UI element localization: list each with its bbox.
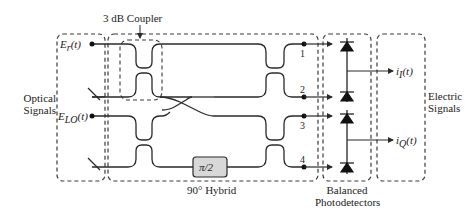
lo-input-label: ELO(t) — [58, 110, 88, 126]
vacuum-port-top — [88, 88, 100, 100]
signal-base: E — [60, 38, 67, 50]
diagram-canvas — [0, 0, 476, 211]
electric-signals-box — [377, 34, 425, 181]
signal-input-label: Er(t) — [60, 38, 81, 54]
photodiodes — [340, 38, 354, 174]
electric-signals-line1: Electric — [428, 90, 462, 102]
port-4-label: 4 — [300, 154, 305, 166]
port-3-label: 3 — [300, 120, 305, 132]
lo-base: E — [58, 110, 65, 122]
in-phase-arg: (t) — [402, 65, 412, 77]
photodetectors-line1: Balanced — [315, 184, 379, 196]
electric-signals-line2: Signals — [428, 102, 462, 114]
waveguides — [92, 44, 305, 167]
in-phase-output-label: iI(t) — [396, 65, 413, 81]
port-2-label: 2 — [300, 84, 305, 96]
hybrid-label: 90° Hybrid — [187, 184, 236, 196]
vacuum-port-bottom — [88, 158, 100, 170]
lo-input-dot — [90, 114, 95, 119]
coupler-box — [120, 40, 162, 100]
lo-sub: LO — [65, 114, 78, 125]
optical-signals-line2: Signals — [14, 104, 56, 116]
output-ports — [302, 42, 333, 170]
coupler-label: 3 dB Coupler — [103, 12, 162, 24]
port-1-label: 1 — [300, 48, 305, 60]
quadrature-output-label: iQ(t) — [396, 134, 417, 150]
optical-signals-line1: Optical — [14, 92, 56, 104]
phase-shifter-label: π/2 — [199, 161, 213, 173]
optical-signals-box — [57, 34, 105, 181]
quadrature-arg: (t) — [406, 134, 416, 146]
lo-arg: (t) — [78, 110, 88, 122]
photodetectors-line2: Photodetectors — [315, 196, 379, 208]
optical-signals-label: Optical Signals — [14, 92, 56, 116]
photodetectors-label: Balanced Photodetectors — [315, 184, 379, 208]
signal-input-dot — [90, 42, 95, 47]
electric-signals-label: Electric Signals — [428, 90, 462, 114]
signal-arg: (t) — [71, 38, 81, 50]
